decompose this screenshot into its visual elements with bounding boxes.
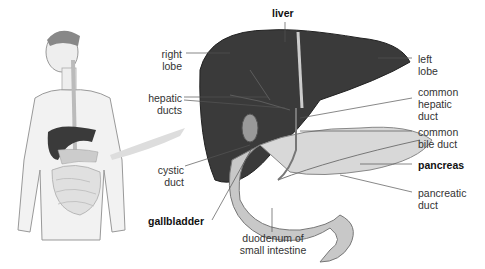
human-figure (18, 31, 125, 240)
label-duodenum: duodenum of small intestine (232, 232, 314, 256)
label-gallbladder: gallbladder (148, 215, 204, 227)
anatomy-illustration (0, 0, 485, 269)
label-cystic-duct: cystic duct (140, 164, 184, 188)
label-liver: liver (272, 7, 294, 19)
label-right-lobe: right lobe (150, 48, 182, 72)
gallbladder-shape (242, 114, 258, 142)
label-common-hepatic-duct: common hepatic duct (418, 86, 458, 122)
label-pancreas: pancreas (418, 159, 464, 171)
label-pancreatic-duct: pancreatic duct (418, 187, 466, 211)
label-left-lobe: left lobe (418, 53, 438, 77)
label-common-bile-duct: common bile duct (418, 126, 458, 150)
zoom-arrow (110, 128, 185, 160)
label-hepatic-ducts: hepatic ducts (140, 92, 182, 116)
